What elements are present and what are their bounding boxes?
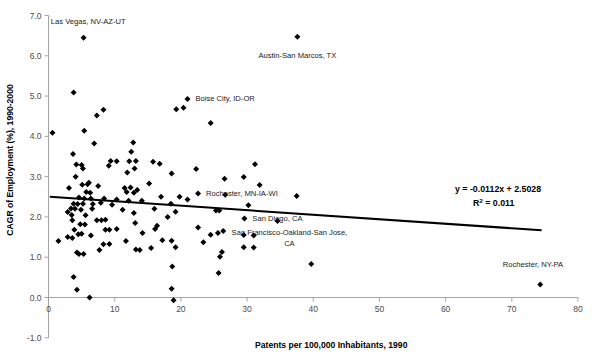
y-tick-label: 6.0 xyxy=(30,51,42,61)
equation-block: y = -0.0112x + 2.5028 R2 = 0.011 xyxy=(455,184,541,208)
data-point xyxy=(173,209,179,215)
annotation-group: Las Vegas, NV-AZ-UTAustin-San Marcos, TX… xyxy=(51,17,564,269)
data-point xyxy=(100,107,106,113)
y-tick-label: 2.0 xyxy=(30,212,42,222)
y-tick-label: 4.0 xyxy=(30,131,42,141)
x-tick-label: 50 xyxy=(375,304,385,314)
data-point xyxy=(195,224,201,230)
data-point xyxy=(173,106,179,112)
point-annotation: Boise City, ID-OR xyxy=(195,94,255,103)
point-annotation: Rochester, MN-IA-WI xyxy=(206,189,278,198)
data-point xyxy=(73,162,79,168)
data-point xyxy=(128,185,134,191)
point-annotation: San Francisco-Oakland-San Jose, xyxy=(232,228,348,237)
data-point xyxy=(171,297,177,303)
point-annotation: Las Vegas, NV-AZ-UT xyxy=(51,17,126,26)
x-axis: 01020304050607080 xyxy=(46,298,583,314)
data-point xyxy=(82,222,88,228)
data-point xyxy=(80,201,86,207)
point-annotation: Rochester, NY-PA xyxy=(503,260,564,269)
data-point xyxy=(66,185,72,191)
data-point xyxy=(88,232,94,238)
data-point xyxy=(257,182,263,188)
data-point xyxy=(83,189,89,195)
data-point xyxy=(537,282,543,288)
data-point xyxy=(128,149,134,155)
data-point xyxy=(294,193,300,199)
data-point xyxy=(208,232,214,238)
data-point xyxy=(169,238,175,244)
data-point xyxy=(133,158,139,164)
data-point xyxy=(184,197,190,203)
data-point xyxy=(181,105,187,111)
data-point xyxy=(132,166,138,172)
x-tick-label: 10 xyxy=(110,304,120,314)
data-point-group xyxy=(49,34,543,303)
y-tick-label: 3.0 xyxy=(30,172,42,182)
data-point xyxy=(124,170,130,176)
data-point xyxy=(177,194,183,200)
data-point xyxy=(165,214,171,220)
point-annotation: CA xyxy=(284,239,295,248)
y-tick-label: 1.0 xyxy=(30,252,42,262)
data-point xyxy=(74,287,80,293)
data-point xyxy=(200,239,206,245)
data-point xyxy=(139,230,145,236)
data-point xyxy=(109,202,115,208)
data-point xyxy=(114,226,120,232)
data-point xyxy=(72,206,78,212)
data-point xyxy=(114,158,120,164)
point-annotation: San Diego, CA xyxy=(252,214,303,223)
data-point xyxy=(81,251,87,257)
data-point xyxy=(151,206,157,212)
data-point xyxy=(251,245,257,251)
data-point xyxy=(90,201,96,207)
r-value: = 0.011 xyxy=(483,198,515,208)
data-point xyxy=(130,139,136,145)
data-point xyxy=(96,247,102,253)
x-tick-label: 40 xyxy=(309,304,319,314)
chart-canvas: -1.00.01.02.03.04.05.06.07.0 01020304050… xyxy=(0,0,605,358)
data-point xyxy=(94,112,100,118)
data-point xyxy=(169,286,175,292)
y-axis: -1.00.01.02.03.04.05.06.07.0 xyxy=(27,11,49,343)
y-tick-label: -1.0 xyxy=(27,333,42,343)
data-point xyxy=(184,96,190,102)
y-tick-label: 0.0 xyxy=(30,293,42,303)
x-tick-label: 20 xyxy=(176,304,186,314)
data-point xyxy=(95,183,101,189)
data-point xyxy=(169,170,175,176)
scatter-chart: -1.00.01.02.03.04.05.06.07.0 01020304050… xyxy=(0,0,605,358)
data-point xyxy=(120,207,126,213)
data-point xyxy=(245,202,251,208)
data-point xyxy=(158,194,164,200)
data-point xyxy=(241,216,247,222)
data-point xyxy=(126,158,132,164)
x-tick-label: 60 xyxy=(441,304,451,314)
data-point xyxy=(193,166,199,172)
data-point xyxy=(308,261,314,267)
data-point xyxy=(106,241,112,247)
data-point xyxy=(241,174,247,180)
x-tick-label: 30 xyxy=(242,304,252,314)
data-point xyxy=(83,212,89,218)
data-point xyxy=(100,241,106,247)
data-point xyxy=(65,234,71,240)
data-point xyxy=(55,238,61,244)
data-point xyxy=(208,120,214,126)
data-point xyxy=(294,34,300,40)
data-point xyxy=(71,274,77,280)
data-point xyxy=(69,217,75,223)
data-point xyxy=(123,238,129,244)
r-squared-label: R2 = 0.011 xyxy=(473,197,514,208)
data-point xyxy=(81,128,87,134)
data-point xyxy=(157,161,163,167)
data-point xyxy=(70,151,76,157)
x-tick-label: 80 xyxy=(573,304,583,314)
data-point xyxy=(252,161,258,167)
regression-equation: y = -0.0112x + 2.5028 xyxy=(455,184,541,194)
y-axis-title: CAGR of Employment (%), 1990-2000 xyxy=(5,84,15,236)
data-point xyxy=(216,270,222,276)
data-point xyxy=(49,130,55,136)
data-point xyxy=(137,247,143,253)
